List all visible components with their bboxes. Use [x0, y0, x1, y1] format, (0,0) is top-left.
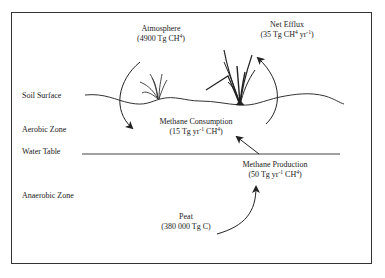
diagram-artwork	[0, 0, 385, 278]
zone-label-aerobic-zone: Aerobic Zone	[22, 125, 66, 135]
methane-production-label: Methane Production (50 Tg yr-1 CH4)	[242, 160, 307, 180]
zone-label-anaerobic-zone: Anaerobic Zone	[22, 191, 74, 201]
peat-title: Peat	[161, 212, 210, 222]
peat-value: (380 000 Tg C)	[161, 222, 210, 232]
methane-consumption-title: Methane Consumption	[159, 117, 232, 127]
production-to-consumption-arrow	[237, 137, 259, 154]
small-grass-icon	[140, 74, 167, 99]
methane-production-value: (50 Tg yr-1 CH4)	[242, 170, 307, 180]
peat-to-production-arrow	[217, 187, 256, 234]
net-efflux-arrow	[258, 58, 277, 124]
atmosphere-label: Atmosphere (4900 Tg CH4)	[137, 24, 185, 44]
atmosphere-to-consumption-arrow	[120, 62, 140, 128]
soil-surface-line	[85, 94, 344, 105]
net-efflux-label: Net Efflux (35 Tg CH4 yr-1)	[260, 20, 313, 40]
methane-consumption-label: Methane Consumption (15 Tg yr-1 CH4)	[159, 117, 232, 137]
large-grass-icon	[206, 50, 255, 105]
peat-label: Peat (380 000 Tg C)	[161, 212, 210, 232]
atmosphere-value: (4900 Tg CH4)	[137, 34, 185, 44]
atmosphere-title: Atmosphere	[137, 24, 185, 34]
net-efflux-value: (35 Tg CH4 yr-1)	[260, 30, 313, 40]
zone-label-soil-surface: Soil Surface	[22, 91, 61, 101]
zone-label-water-table: Water Table	[22, 147, 60, 157]
methane-consumption-value: (15 Tg yr-1 CH4)	[159, 127, 232, 137]
